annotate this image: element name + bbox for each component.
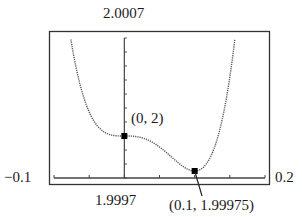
point-origin xyxy=(121,133,127,139)
axes xyxy=(54,38,265,178)
function-curve xyxy=(71,40,235,171)
marked-points xyxy=(121,133,197,174)
xmin-label: −0.1 xyxy=(4,170,31,185)
ymax-label: 2.0007 xyxy=(103,6,144,21)
point-label-origin: (0, 2) xyxy=(131,111,164,126)
ymin-label: 1.9997 xyxy=(95,193,136,208)
point-label-minimum: (0.1, 1.99975) xyxy=(169,198,254,213)
graph-frame xyxy=(50,32,270,185)
point-minimum xyxy=(192,168,198,174)
graph-plot xyxy=(0,0,302,217)
xmax-label: 0.2 xyxy=(275,170,294,185)
